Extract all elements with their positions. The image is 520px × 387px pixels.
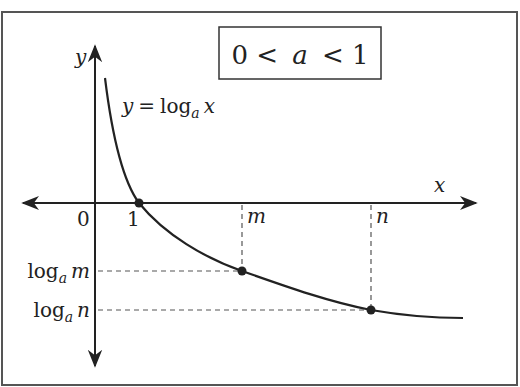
function-label: y=logax [121, 94, 215, 121]
x-tick-1: 1 [127, 207, 140, 231]
condition-left: 0 < [231, 40, 278, 70]
y-tick-log-n: logan [34, 298, 91, 325]
x-tick-m: m [247, 204, 266, 228]
y-axis-label: y [74, 45, 87, 69]
x-tick-n: n [376, 204, 389, 228]
x-axis-label: x [434, 173, 445, 197]
log-function-graph: 0 < a < 1 y x 0 1 m n logam logan [0, 0, 520, 387]
condition-right: < 1 [322, 40, 369, 70]
origin-label: 0 [77, 207, 90, 231]
point-n [367, 306, 376, 315]
condition-variable: a [292, 40, 308, 70]
log-curve [105, 78, 463, 318]
condition-box: 0 < a < 1 [219, 27, 381, 79]
point-one [135, 199, 144, 208]
point-m [238, 267, 247, 276]
y-tick-log-m: logam [27, 259, 90, 286]
diagram-frame: 0 < a < 1 y x 0 1 m n logam logan [0, 0, 520, 387]
svg-text:0 < a < 1: 0 < a < 1 [231, 40, 368, 70]
